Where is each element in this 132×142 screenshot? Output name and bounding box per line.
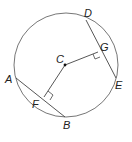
right-angle-mark-g <box>93 54 100 59</box>
segment-cg <box>65 52 98 65</box>
right-angle-mark-f <box>48 91 53 100</box>
label-d: D <box>84 7 92 19</box>
label-a: A <box>4 73 12 85</box>
label-c: C <box>56 53 64 65</box>
label-g: G <box>100 41 109 53</box>
segment-cf <box>44 65 65 97</box>
chord-ab <box>16 78 65 117</box>
label-f: F <box>32 98 40 110</box>
circle-diagram: D G C E A F B <box>0 0 132 142</box>
label-b: B <box>63 119 70 131</box>
label-e: E <box>115 79 123 91</box>
center-point-c <box>64 64 67 67</box>
